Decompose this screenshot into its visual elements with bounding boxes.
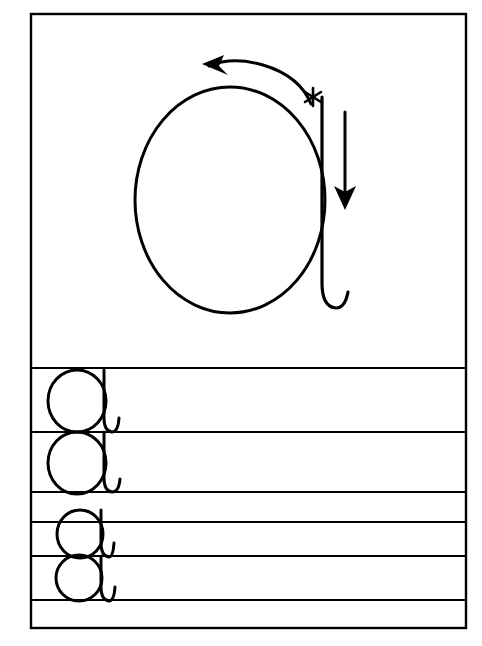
page-frame — [31, 14, 466, 628]
worksheet-canvas — [0, 0, 482, 646]
handwriting-worksheet: Handwriting practice worksheet for the l… — [0, 0, 482, 646]
